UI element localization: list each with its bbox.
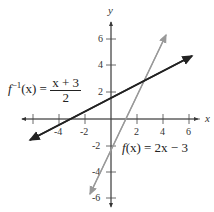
x-tick-label: 4 (160, 126, 165, 137)
y-tick-label: 6 (98, 33, 103, 44)
function-equation-label: f(x) = 2x − 3 (122, 140, 188, 156)
y-tick-label: 4 (98, 59, 103, 70)
inverse-sup: −1 (12, 80, 22, 90)
inverse-denominator: 2 (50, 91, 81, 105)
x-tick-label: 6 (186, 126, 191, 137)
y-axis-label: y (107, 4, 113, 16)
func-rest: (x) = 2x − 3 (126, 140, 188, 155)
x-axis: -4 -2 2 4 6 x (22, 112, 210, 137)
x-tick-label: -2 (80, 126, 88, 137)
inverse-equation-label: f−1(x) = x + 3 2 (8, 76, 81, 105)
y-tick-label: -6 (92, 192, 100, 203)
inverse-arg: (x) = (21, 81, 47, 96)
x-axis-label: x (204, 112, 210, 124)
y-tick-label: -2 (92, 140, 100, 151)
x-tick-label: 2 (134, 126, 139, 137)
inverse-fraction: x + 3 2 (50, 76, 81, 105)
y-tick-label: 2 (98, 86, 103, 97)
graph: -4 -2 2 4 6 x 6 4 2 -2 -4 -6 y (0, 0, 214, 212)
inverse-numerator: x + 3 (50, 76, 81, 91)
